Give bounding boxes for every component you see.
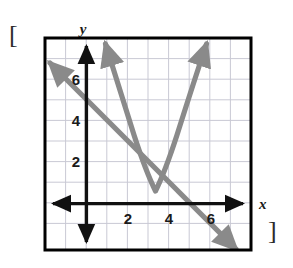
- y-tick-label-2: 2: [72, 153, 80, 170]
- left-bracket: [: [9, 22, 18, 48]
- y-tick-label-4: 4: [72, 112, 81, 129]
- x-tick-label-4: 4: [165, 210, 174, 227]
- x-tick-label-6: 6: [207, 210, 215, 227]
- coordinate-plane: y x 6 4 2 2 4 6: [0, 0, 293, 268]
- graph-figure: [ ]: [0, 0, 293, 268]
- right-bracket: ]: [268, 218, 277, 244]
- x-axis-label: x: [258, 196, 267, 212]
- y-axis-label: y: [78, 21, 87, 37]
- y-tick-label-6: 6: [72, 71, 80, 88]
- x-tick-label-2: 2: [124, 210, 132, 227]
